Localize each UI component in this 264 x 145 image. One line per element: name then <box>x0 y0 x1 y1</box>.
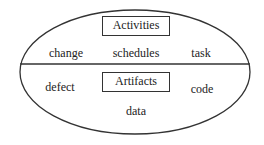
artifacts-box: Artifacts <box>102 72 170 92</box>
diagram-canvas: Activities change schedules task Artifac… <box>0 0 264 145</box>
label-data: data <box>126 104 146 118</box>
activities-box: Activities <box>102 16 170 36</box>
label-code: code <box>191 82 214 96</box>
label-change: change <box>49 46 83 60</box>
label-schedules: schedules <box>113 46 160 60</box>
label-task: task <box>191 46 210 60</box>
label-defect: defect <box>45 80 74 94</box>
